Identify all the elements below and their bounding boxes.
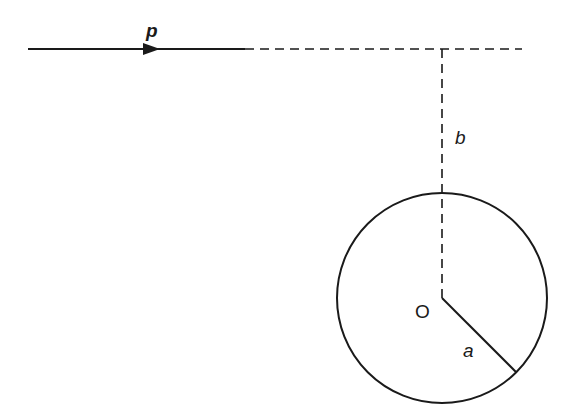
radius-label: a	[463, 340, 474, 361]
scattering-diagram: p b O a	[0, 0, 570, 417]
radius-line	[442, 298, 516, 372]
impact-parameter-label: b	[455, 127, 466, 148]
arrow-right-icon	[143, 43, 160, 55]
origin-label: O	[415, 301, 430, 322]
momentum-label: p	[145, 20, 158, 41]
